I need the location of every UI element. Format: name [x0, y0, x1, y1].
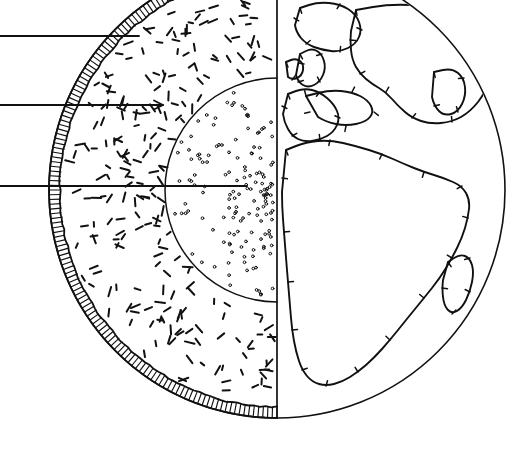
crust-hatch-tick	[115, 31, 122, 38]
coast-tick	[374, 112, 378, 115]
mantle-dash	[128, 177, 134, 178]
mantle-dash	[121, 168, 130, 170]
core-dot	[236, 157, 239, 160]
core-dot	[201, 161, 204, 164]
crust-hatch-tick	[163, 378, 168, 387]
coast-tick	[452, 117, 453, 123]
mantle-dash	[116, 53, 123, 54]
crust-hatch-tick	[193, 392, 197, 401]
coast-tick	[386, 336, 390, 340]
coast-tick	[345, 126, 346, 131]
core-dot	[255, 289, 258, 292]
core-dot	[247, 127, 250, 130]
crust-hatch-tick	[244, 405, 245, 415]
diagram-canvas	[0, 0, 531, 468]
core-dot	[271, 287, 274, 290]
mantle-dash	[149, 171, 158, 173]
core-dot	[264, 200, 267, 203]
mantle-dash	[97, 175, 106, 180]
crust-hatch-tick	[121, 24, 128, 31]
mantle-dash	[157, 42, 163, 43]
mantle-dash	[196, 325, 202, 332]
crust-hatch-tick	[57, 244, 67, 247]
mantle-dash	[134, 160, 142, 163]
crust-hatch-tick	[118, 27, 125, 35]
crust-hatch-tick	[77, 295, 86, 300]
crust-hatch-tick	[93, 317, 102, 323]
mantle-dash	[81, 226, 88, 227]
core-dot	[184, 212, 187, 215]
mantle-dash	[241, 370, 243, 375]
mantle-dash	[123, 193, 125, 202]
mantle-dash	[107, 195, 112, 203]
mantle-dash	[196, 10, 204, 12]
crust-hatch-tick	[143, 6, 150, 15]
mantle-dash	[162, 206, 164, 216]
coast-tick	[288, 282, 294, 283]
mantle-dash	[159, 247, 167, 249]
crust-hatch-tick	[108, 38, 116, 45]
core-dot	[254, 181, 257, 184]
mantle-dash	[265, 325, 273, 330]
mantle-dash	[135, 288, 141, 290]
core-dot	[190, 180, 193, 183]
mantle-dash	[131, 311, 139, 313]
crust-hatch-tick	[54, 235, 64, 237]
mantle-dash	[108, 287, 111, 296]
mantle-dash	[185, 341, 195, 343]
crust-hatch-tick	[114, 342, 122, 350]
core-dot	[269, 194, 272, 197]
mantle-dash	[248, 341, 253, 347]
core-dot	[271, 135, 274, 138]
core-dot	[213, 265, 216, 268]
core-dot	[180, 212, 183, 215]
mantle-dash	[145, 307, 152, 310]
crust-hatch-tick	[185, 388, 189, 398]
core-dot	[252, 249, 255, 252]
coast-tick	[422, 172, 424, 177]
core-dot	[190, 158, 193, 161]
crust-hatch-tick	[102, 328, 110, 335]
crust-hatch-tick	[90, 60, 99, 66]
core-dot	[259, 157, 262, 160]
mantle-dash	[237, 70, 243, 77]
mantle-dash	[173, 40, 180, 42]
mantle-dash	[255, 314, 262, 316]
coast-tick	[288, 94, 290, 99]
core-dot	[222, 241, 225, 244]
crust-hatch-tick	[147, 3, 153, 12]
crust-hatch-tick	[88, 64, 97, 70]
core-dot	[233, 197, 236, 200]
core-dot	[191, 253, 194, 256]
crust-hatch-tick	[139, 9, 146, 18]
crust-hatch-tick	[51, 217, 62, 218]
core-dot	[229, 193, 232, 196]
core-dot	[232, 190, 235, 193]
coast-tick	[319, 135, 320, 141]
core-dot	[206, 161, 209, 164]
core-dot	[221, 144, 224, 147]
mantle-dash	[168, 139, 175, 140]
mantle-dash	[174, 32, 176, 37]
crust-hatch-tick	[73, 89, 83, 94]
crust-hatch-tick	[159, 376, 164, 385]
core-dot	[271, 218, 274, 221]
core-dot	[262, 176, 265, 179]
crust-hatch-tick	[202, 395, 205, 405]
mantle-dash	[187, 356, 193, 364]
mantle-dash	[163, 71, 165, 76]
mantle-dash	[85, 145, 89, 151]
crust-hatch-tick	[108, 335, 116, 342]
coastline-shading-ticks	[434, 72, 464, 112]
mantle-dash	[108, 309, 109, 317]
mantle-dash	[236, 338, 240, 342]
core-dot	[198, 153, 201, 156]
mantle-dash	[106, 141, 107, 147]
crust-hatch-tick	[125, 351, 132, 359]
mantle-dash	[215, 366, 220, 374]
core-dot	[200, 261, 203, 264]
core-dot	[270, 244, 273, 247]
coast-tick	[300, 8, 302, 13]
core-dot	[255, 172, 258, 175]
coast-tick	[305, 112, 310, 113]
